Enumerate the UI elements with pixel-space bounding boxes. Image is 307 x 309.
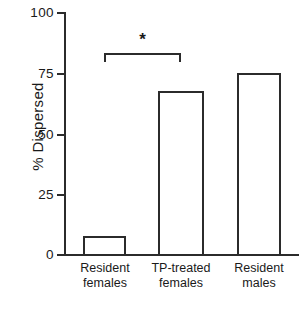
bar-chart-figure: 100 75 50 25 0 % Dispersed * Resident fe… [0,0,307,309]
bar-resident-males [237,73,281,256]
significance-bracket [104,53,181,62]
x-axis-label-line-1: Resident [72,261,138,276]
y-axis-label-0: 0 [46,248,54,262]
x-axis-label-resident-males: Resident males [226,261,292,291]
y-axis-tick-75 [57,73,65,75]
bar-resident-females [83,236,126,256]
x-axis-label-line-2: males [226,276,292,291]
x-axis-label-line-2: females [146,276,216,291]
x-axis-label-line-1: Resident [226,261,292,276]
bar-tp-treated-females [158,91,204,256]
x-axis-label-line-2: females [72,276,138,291]
x-axis-label-line-1: TP-treated [146,261,216,276]
y-axis-title: % Dispersed [29,57,46,197]
y-axis-tick-50 [57,134,65,136]
y-axis-tick-100 [57,12,65,14]
y-axis-tick-25 [57,194,65,196]
y-axis-label-100: 100 [30,6,54,20]
x-axis-label-tp-treated-females: TP-treated females [146,261,216,291]
significance-asterisk: * [104,31,181,48]
x-axis-label-resident-females: Resident females [72,261,138,291]
